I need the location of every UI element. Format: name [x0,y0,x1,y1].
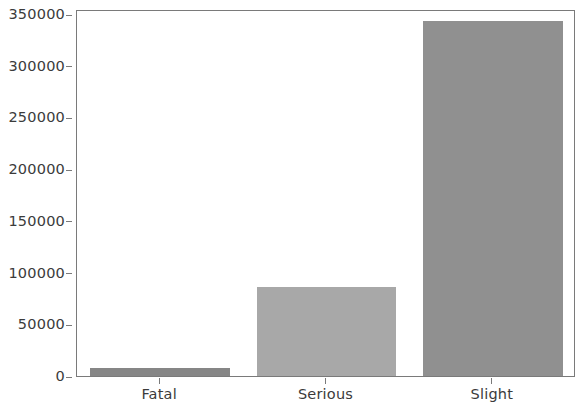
y-tick-mark [66,221,72,222]
y-tick-mark [66,118,72,119]
y-tick-label: 250000 [8,109,65,125]
x-tick-label: Fatal [141,386,177,402]
plot-area [76,10,575,377]
y-tick-mark [66,15,72,16]
x-tick-label: Slight [471,386,514,402]
x-tick-label: Serious [298,386,353,402]
y-tick-mark [66,170,72,171]
y-tick-label: 50000 [18,316,65,332]
x-tick-mark [159,378,160,384]
bar-series [77,11,574,376]
x-tick-mark [491,378,492,384]
x-axis: FatalSeriousSlight [76,377,575,407]
bar-serious [257,287,397,376]
y-tick-label: 0 [56,368,65,384]
y-tick-label: 200000 [8,161,65,177]
x-tick-mark [325,378,326,384]
y-tick-mark [66,325,72,326]
y-tick-mark [66,66,72,67]
y-tick-label: 100000 [8,265,65,281]
bar-fatal [90,368,230,376]
y-tick-label: 150000 [8,213,65,229]
y-tick-label: 350000 [8,6,65,22]
y-tick-mark [66,377,72,378]
y-tick-mark [66,273,72,274]
bar-slight [423,21,563,376]
y-axis: 0500001000001500002000002500003000003500… [0,0,76,407]
y-tick-label: 300000 [8,58,65,74]
bar-chart-figure: 0500001000001500002000002500003000003500… [0,0,583,407]
